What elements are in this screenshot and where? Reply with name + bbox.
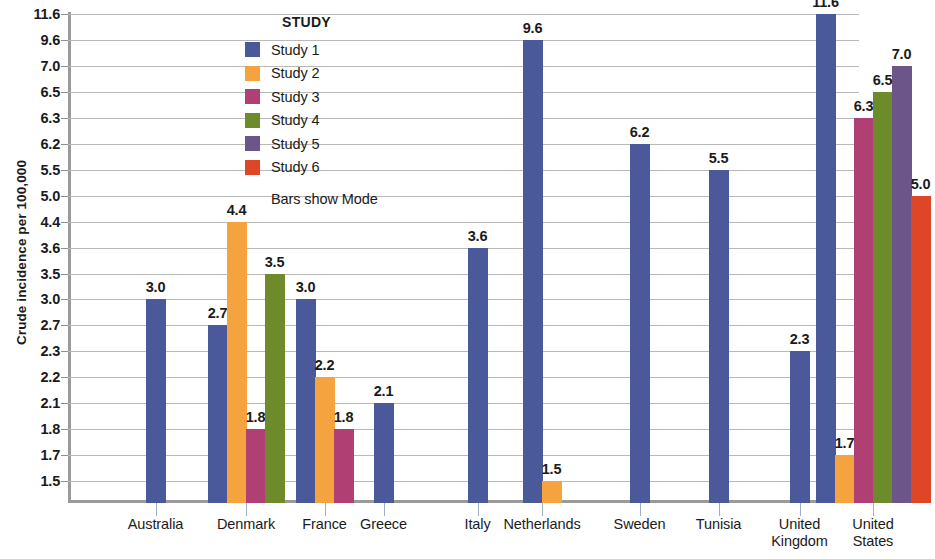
bar-value-label: 3.0 xyxy=(286,280,326,295)
bar-value-label: 1.5 xyxy=(532,462,572,477)
bar-value-label: 9.6 xyxy=(513,21,553,36)
gridline xyxy=(68,481,859,482)
legend: STUDY Study 1Study 2Study 3Study 4Study … xyxy=(245,14,425,207)
gridline xyxy=(68,455,859,456)
legend-item[interactable]: Study 4 xyxy=(245,109,425,133)
bar[interactable] xyxy=(816,14,836,503)
bar[interactable] xyxy=(630,144,650,503)
bar[interactable] xyxy=(892,66,912,503)
bar[interactable] xyxy=(315,377,335,503)
y-tick-mark xyxy=(61,144,68,145)
y-tick-label: 7.0 xyxy=(0,59,60,74)
bar[interactable] xyxy=(265,274,285,504)
bar[interactable] xyxy=(374,403,394,503)
y-tick-mark xyxy=(61,481,68,482)
legend-item-label: Study 6 xyxy=(271,159,319,175)
bar[interactable] xyxy=(246,429,266,503)
gridline xyxy=(68,40,859,41)
gridline xyxy=(68,429,859,430)
legend-color-swatch xyxy=(245,160,260,175)
x-tick-mark xyxy=(478,503,479,516)
gridline xyxy=(68,92,859,93)
bar-value-label: 6.2 xyxy=(620,125,660,140)
legend-item[interactable]: Study 5 xyxy=(245,132,425,156)
legend-item[interactable]: Study 3 xyxy=(245,85,425,109)
y-tick-label: 4.4 xyxy=(0,215,60,230)
plot-area: 3.02.74.41.83.53.02.21.82.13.69.61.56.25… xyxy=(68,12,859,503)
y-tick-mark xyxy=(61,351,68,352)
gridline xyxy=(68,325,859,326)
y-tick-label: 2.1 xyxy=(0,396,60,411)
y-tick-label: 5.5 xyxy=(0,163,60,178)
gridline xyxy=(68,222,859,223)
y-tick-mark xyxy=(61,196,68,197)
bar[interactable] xyxy=(146,299,166,503)
gridline xyxy=(68,14,859,15)
bar-value-label: 2.2 xyxy=(305,358,345,373)
bar[interactable] xyxy=(873,92,893,503)
bar[interactable] xyxy=(709,170,729,503)
bar-value-label: 2.1 xyxy=(364,384,404,399)
y-tick-mark xyxy=(61,403,68,404)
legend-item[interactable]: Study 6 xyxy=(245,156,425,180)
legend-item[interactable]: Study 1 xyxy=(245,38,425,62)
y-tick-mark xyxy=(61,299,68,300)
bar[interactable] xyxy=(790,351,810,503)
legend-color-swatch xyxy=(245,42,260,57)
y-tick-mark xyxy=(61,377,68,378)
bar[interactable] xyxy=(227,222,247,503)
x-tick-mark xyxy=(246,503,247,516)
y-tick-label: 1.5 xyxy=(0,474,60,489)
bar[interactable] xyxy=(296,299,316,503)
x-category-line: States xyxy=(813,533,933,550)
legend-item[interactable]: Study 2 xyxy=(245,62,425,86)
bar-value-label: 7.0 xyxy=(882,47,922,62)
bar[interactable] xyxy=(854,118,874,503)
gridline xyxy=(68,118,859,119)
y-tick-label: 2.2 xyxy=(0,370,60,385)
legend-color-swatch xyxy=(245,66,260,81)
bar-value-label: 3.6 xyxy=(458,229,498,244)
y-tick-label: 6.2 xyxy=(0,137,60,152)
bar[interactable] xyxy=(334,429,354,503)
gridline xyxy=(68,351,859,352)
y-tick-mark xyxy=(61,118,68,119)
y-tick-label: 6.3 xyxy=(0,111,60,126)
y-tick-mark xyxy=(61,92,68,93)
legend-items: Study 1Study 2Study 3Study 4Study 5Study… xyxy=(245,38,425,179)
y-tick-label: 3.6 xyxy=(0,241,60,256)
x-tick-mark xyxy=(325,503,326,516)
bar-value-label: 3.5 xyxy=(255,255,295,270)
gridline xyxy=(68,170,859,171)
bar[interactable] xyxy=(542,481,562,503)
y-tick-label: 1.7 xyxy=(0,448,60,463)
legend-item-label: Study 1 xyxy=(271,42,319,58)
y-tick-label: 5.0 xyxy=(0,189,60,204)
y-tick-label: 6.5 xyxy=(0,85,60,100)
bar-value-label: 5.5 xyxy=(699,151,739,166)
x-category-label: UnitedStates xyxy=(813,516,933,550)
y-tick-label: 3.5 xyxy=(0,267,60,282)
bar[interactable] xyxy=(835,455,855,503)
y-tick-label: 11.6 xyxy=(0,7,60,22)
y-tick-mark xyxy=(61,455,68,456)
gridline xyxy=(68,196,859,197)
x-tick-mark xyxy=(542,503,543,516)
bar[interactable] xyxy=(468,248,488,503)
x-tick-mark xyxy=(719,503,720,516)
gridline xyxy=(68,66,859,67)
bar-value-label: 5.0 xyxy=(901,177,935,192)
y-tick-mark xyxy=(61,325,68,326)
legend-note: Bars show Mode xyxy=(271,191,425,207)
bar[interactable] xyxy=(523,40,543,503)
gridline xyxy=(68,274,859,275)
x-tick-mark xyxy=(640,503,641,516)
x-tick-mark xyxy=(156,503,157,516)
gridline xyxy=(68,144,859,145)
y-tick-label: 2.3 xyxy=(0,344,60,359)
bar[interactable] xyxy=(911,196,931,503)
y-tick-label: 2.7 xyxy=(0,318,60,333)
bar-value-label: 1.8 xyxy=(324,410,364,425)
bar[interactable] xyxy=(208,325,228,503)
